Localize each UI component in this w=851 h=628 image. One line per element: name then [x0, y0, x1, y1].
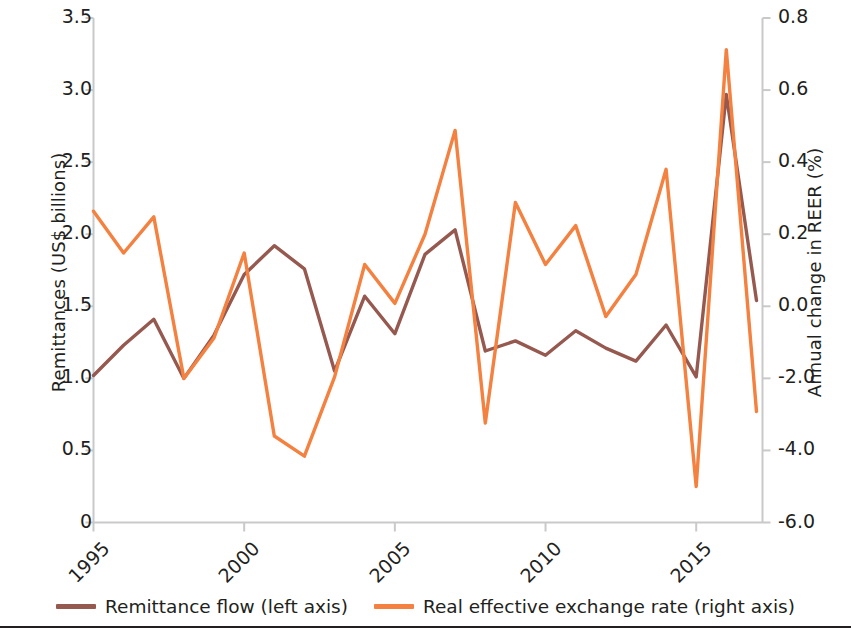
- x-axis-ticks: [94, 523, 697, 532]
- series-line-reer: [94, 50, 757, 487]
- right-axis-ticks: [763, 18, 771, 523]
- right-tick-label: 0.6: [778, 77, 848, 99]
- legend-label-remittance-flow: Remittance flow (left axis): [105, 596, 348, 617]
- right-tick-label: 0.0: [778, 293, 848, 315]
- right-tick-label: 0.4: [778, 149, 848, 171]
- plot-area: [0, 0, 851, 628]
- right-tick-label: -4.0: [778, 437, 848, 459]
- chart-figure: Remittances (US$ billions) Annual change…: [0, 0, 851, 628]
- legend-swatch-reer: [374, 604, 414, 609]
- right-tick-label: -2.0: [778, 365, 848, 387]
- chart-legend: Remittance flow (left axis) Real effecti…: [0, 596, 851, 617]
- left-tick-label: 1.0: [22, 365, 92, 387]
- legend-swatch-remittance-flow: [56, 604, 96, 609]
- left-tick-label: 3.5: [22, 5, 92, 27]
- left-tick-label: 2.5: [22, 149, 92, 171]
- right-tick-label: 0.8: [778, 5, 848, 27]
- legend-item-remittance-flow: Remittance flow (left axis): [56, 596, 348, 617]
- right-tick-label: 0.2: [778, 221, 848, 243]
- data-series-layer: [94, 50, 757, 487]
- left-tick-label: 0.5: [22, 437, 92, 459]
- left-tick-label: 3.0: [22, 77, 92, 99]
- left-tick-label: 1.5: [22, 293, 92, 315]
- legend-label-reer: Real effective exchange rate (right axis…: [423, 596, 795, 617]
- left-tick-label: 0: [22, 510, 92, 532]
- left-tick-label: 2.0: [22, 221, 92, 243]
- legend-item-reer: Real effective exchange rate (right axis…: [374, 596, 795, 617]
- right-tick-label: -6.0: [778, 510, 848, 532]
